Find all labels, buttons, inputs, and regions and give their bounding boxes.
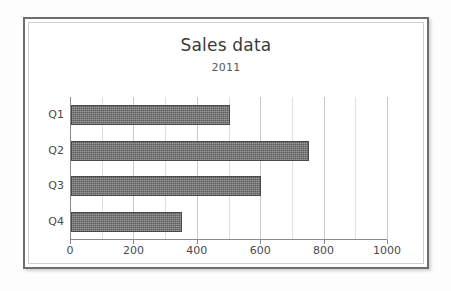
- x-tick-mark: [260, 240, 261, 244]
- x-tick-mark: [70, 240, 71, 244]
- x-tick-mark: [133, 240, 134, 244]
- chart-title: Sales data: [25, 35, 427, 55]
- bar-row: Q4: [71, 212, 388, 232]
- bar-row: Q1: [71, 105, 388, 125]
- plot-area: Q1Q2Q3Q4 02004006008001000: [70, 97, 387, 240]
- x-axis-line: [70, 239, 387, 240]
- bar[interactable]: [71, 212, 182, 232]
- bar[interactable]: [71, 105, 230, 125]
- bar[interactable]: [71, 176, 261, 196]
- category-label: Q4: [24, 212, 64, 232]
- x-tick-label: 400: [167, 244, 227, 257]
- bar-row: Q2: [71, 141, 388, 161]
- category-label: Q2: [24, 141, 64, 161]
- bar-row: Q3: [71, 176, 388, 196]
- x-tick-label: 200: [103, 244, 163, 257]
- x-tick-mark: [324, 240, 325, 244]
- chart-subtitle: 2011: [25, 61, 427, 74]
- x-tick-label: 1000: [357, 244, 417, 257]
- category-label: Q3: [24, 176, 64, 196]
- page-background: Sales data 2011 Q1Q2Q3Q4 020040060080010…: [0, 0, 451, 291]
- category-label: Q1: [24, 105, 64, 125]
- x-tick-label: 0: [40, 244, 100, 257]
- x-tick-label: 600: [230, 244, 290, 257]
- bar[interactable]: [71, 141, 309, 161]
- x-tick-mark: [197, 240, 198, 244]
- x-tick-label: 800: [294, 244, 354, 257]
- chart-frame: Sales data 2011 Q1Q2Q3Q4 020040060080010…: [23, 17, 429, 269]
- x-tick-mark: [387, 240, 388, 244]
